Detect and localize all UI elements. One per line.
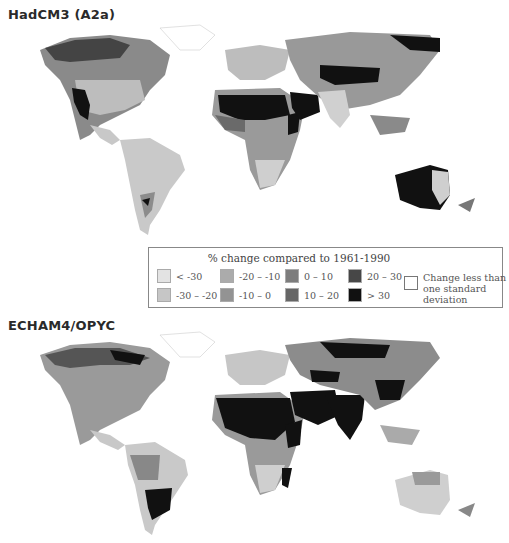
legend-item-lt-minus30: < -30 xyxy=(157,269,202,283)
region-china xyxy=(375,380,405,400)
region-southeast-asia xyxy=(370,115,410,135)
legend-item-minus20-minus10: -20 – -10 xyxy=(220,269,280,283)
legend-item-gt-30: > 30 xyxy=(348,288,390,302)
legend-swatch xyxy=(157,288,171,302)
region-mozambique xyxy=(282,468,292,488)
legend-swatch xyxy=(285,269,299,283)
legend-item-minus10-0: -10 – 0 xyxy=(220,288,271,302)
world-map-echam4 xyxy=(0,330,509,543)
region-central-america xyxy=(90,125,120,145)
legend-swatch xyxy=(348,269,362,283)
legend-box: % change compared to 1961-1990 < -30 -30… xyxy=(148,247,503,308)
region-southeast-asia xyxy=(380,425,420,445)
region-north-australia xyxy=(412,472,440,485)
region-south-asia xyxy=(318,90,350,128)
legend-swatch xyxy=(348,288,362,302)
region-greenland xyxy=(160,332,215,357)
legend-swatch xyxy=(220,269,234,283)
region-central-america xyxy=(90,430,125,450)
legend-swatch xyxy=(220,288,234,302)
legend-item-20-30: 20 – 30 xyxy=(348,269,402,283)
legend-title: % change compared to 1961-1990 xyxy=(149,252,449,264)
legend-item-no-significant-change: Change less than one standard deviation xyxy=(404,272,508,305)
region-europe xyxy=(225,45,290,80)
region-europe xyxy=(225,350,290,385)
region-central-asia xyxy=(310,370,340,382)
legend-item-10-20: 10 – 20 xyxy=(285,288,339,302)
world-map-hadcm3 xyxy=(0,20,509,245)
legend-swatch-empty xyxy=(404,276,418,290)
region-greenland xyxy=(160,25,215,50)
region-new-zealand xyxy=(458,198,475,212)
legend-swatch xyxy=(285,288,299,302)
legend-item-minus30-minus20: -30 – -20 xyxy=(157,288,217,302)
region-central-asia xyxy=(320,65,380,85)
region-new-zealand xyxy=(458,503,475,517)
legend-item-0-10: 0 – 10 xyxy=(285,269,333,283)
region-south-america xyxy=(120,138,185,235)
legend-swatch xyxy=(157,269,171,283)
